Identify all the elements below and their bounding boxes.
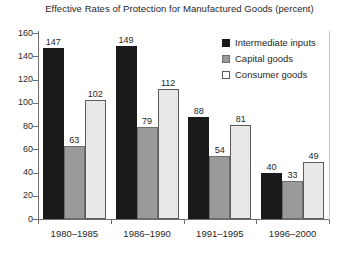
- bar-value-label: 102: [79, 89, 112, 99]
- bar-value-label: 112: [152, 78, 185, 88]
- legend-label: Capital goods: [235, 52, 293, 66]
- bar[interactable]: [64, 146, 85, 219]
- x-axis-category-label: 1991–1995: [184, 228, 257, 240]
- x-axis-category-labels: 1980–19851986–19901991–19951996–2000: [38, 228, 329, 244]
- legend-label: Intermediate inputs: [235, 36, 316, 50]
- legend-swatch-icon: [222, 39, 230, 47]
- bar[interactable]: [209, 156, 230, 219]
- bar-slot: 112: [158, 33, 179, 219]
- legend-item[interactable]: Consumer goods: [222, 68, 342, 82]
- x-axis-line: [38, 219, 330, 220]
- x-axis-tick-mark: [329, 220, 330, 224]
- bar-group: 14979112: [116, 33, 179, 219]
- bar[interactable]: [85, 100, 106, 219]
- legend-swatch-icon: [222, 71, 230, 79]
- bar[interactable]: [137, 127, 158, 219]
- bar-slot: 63: [64, 33, 85, 219]
- chart-legend: Intermediate inputsCapital goodsConsumer…: [222, 36, 342, 84]
- x-axis-tick-mark: [256, 220, 257, 224]
- bar-slot: 147: [43, 33, 64, 219]
- bar-slot: 102: [85, 33, 106, 219]
- legend-item[interactable]: Capital goods: [222, 52, 342, 66]
- bar[interactable]: [158, 89, 179, 219]
- bar[interactable]: [282, 181, 303, 219]
- bar-slot: 79: [137, 33, 158, 219]
- bar[interactable]: [303, 162, 324, 219]
- bar-chart: Effective Rates of Protection for Manufa…: [0, 0, 359, 263]
- bar-value-label: 49: [297, 151, 330, 161]
- x-axis-category-label: 1986–1990: [111, 228, 184, 240]
- x-axis-category-label: 1996–2000: [256, 228, 329, 240]
- bar-value-label: 81: [224, 114, 257, 124]
- bar[interactable]: [43, 48, 64, 219]
- legend-label: Consumer goods: [235, 68, 307, 82]
- legend-item[interactable]: Intermediate inputs: [222, 36, 342, 50]
- legend-swatch-icon: [222, 55, 230, 63]
- x-axis-tick-mark: [38, 220, 39, 224]
- bar-group: 14763102: [43, 33, 106, 219]
- bar[interactable]: [116, 46, 137, 219]
- bar[interactable]: [188, 117, 209, 219]
- x-axis-category-label: 1980–1985: [38, 228, 111, 240]
- bar[interactable]: [230, 125, 251, 219]
- x-axis-tick-mark: [184, 220, 185, 224]
- bar-slot: 88: [188, 33, 209, 219]
- x-axis-tick-mark: [111, 220, 112, 224]
